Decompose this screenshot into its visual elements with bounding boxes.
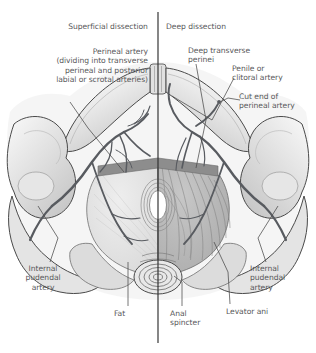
label-penile-or-clitoral-artery: Penile or clitoral artery bbox=[232, 64, 304, 83]
heading-deep-dissection: Deep dissection bbox=[166, 22, 252, 31]
label-levator-ani: Levator ani bbox=[226, 307, 288, 316]
label-internal-pudendal-artery-right: Internal pudendal artery bbox=[250, 264, 312, 292]
label-fat: Fat bbox=[114, 309, 144, 318]
label-internal-pudendal-artery-left: Internal pudendal artery bbox=[12, 264, 74, 292]
perineum-dissection-figure: Superficial dissection Deep dissection P… bbox=[0, 0, 316, 353]
heading-superficial-dissection: Superficial dissection bbox=[62, 22, 154, 31]
label-deep-transverse-perinei: Deep transverse perinei bbox=[188, 46, 264, 65]
label-perineal-artery: Perineal artery (dividing into transvers… bbox=[6, 47, 148, 84]
label-anal-sphincter: Anal spincter bbox=[170, 309, 214, 328]
label-cut-end-of-perineal-artery: Cut end of perineal artery bbox=[239, 92, 313, 111]
